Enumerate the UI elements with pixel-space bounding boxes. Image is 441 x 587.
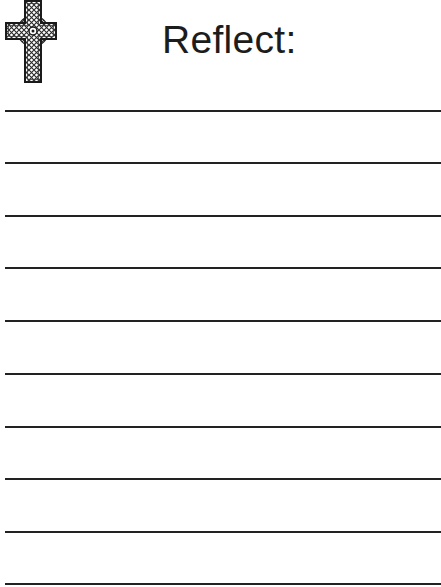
celtic-cross-icon — [4, 0, 58, 84]
writing-line — [5, 320, 441, 322]
writing-line — [5, 162, 441, 164]
writing-line — [5, 531, 441, 533]
writing-line — [5, 373, 441, 375]
writing-line — [5, 110, 441, 112]
writing-line — [5, 215, 441, 217]
writing-line — [5, 426, 441, 428]
page-title: Reflect: — [162, 16, 297, 64]
writing-line — [5, 267, 441, 269]
writing-line — [5, 583, 441, 585]
writing-line — [5, 478, 441, 480]
